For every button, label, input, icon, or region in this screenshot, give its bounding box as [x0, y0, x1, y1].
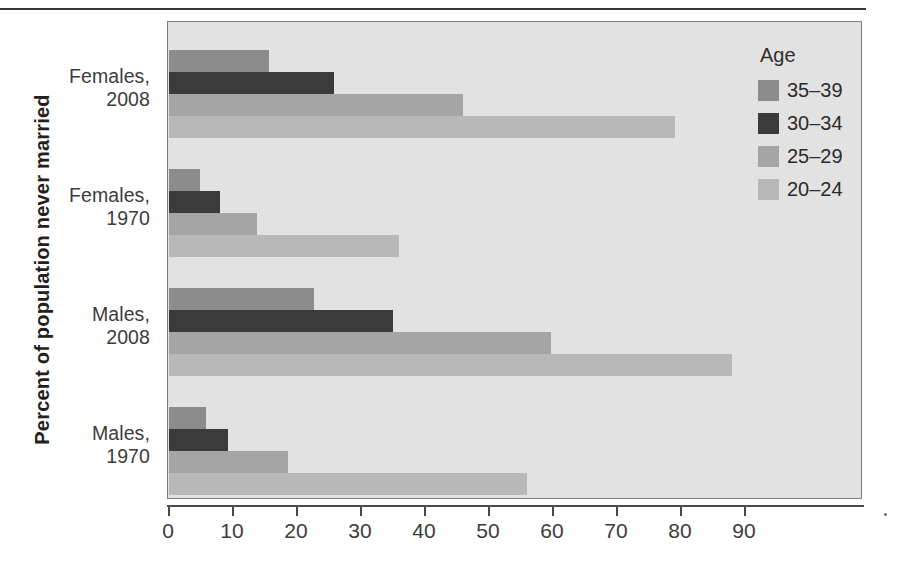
- bar: [169, 310, 393, 332]
- legend-swatch-icon: [758, 113, 779, 134]
- x-axis-tick-label: 70: [591, 519, 641, 543]
- legend-swatch-icon: [758, 179, 779, 200]
- legend-label: 25–29: [787, 145, 843, 168]
- y-axis-title: Percent of population never married: [31, 60, 54, 480]
- legend-swatch-icon: [758, 146, 779, 167]
- x-axis-tick: [744, 505, 746, 516]
- bar: [169, 94, 463, 116]
- legend-item-30-34: 30–34: [758, 107, 858, 140]
- x-axis-tick-label: 30: [335, 519, 385, 543]
- x-axis-tick: [168, 505, 170, 516]
- bar: [169, 50, 269, 72]
- x-axis-tick: [616, 505, 618, 516]
- bar: [169, 191, 220, 213]
- group-label-line1: Males,: [92, 422, 150, 444]
- x-axis-tick-label: 60: [527, 519, 577, 543]
- legend-item-35-39: 35–39: [758, 74, 858, 107]
- bar: [169, 332, 551, 354]
- bar: [169, 354, 732, 376]
- group-label-males-2008: Males, 2008: [40, 303, 150, 349]
- group-label-males-1970: Males, 1970: [40, 422, 150, 468]
- axis-end-dot: [884, 513, 887, 516]
- legend-label: 30–34: [787, 112, 843, 135]
- bar: [169, 407, 206, 429]
- group-label-line2: 2008: [40, 88, 150, 111]
- legend: Age 35–39 30–34 25–29 20–24: [758, 44, 858, 206]
- bar: [169, 169, 200, 191]
- bar: [169, 213, 257, 235]
- x-axis-tick: [360, 505, 362, 516]
- figure-root: Percent of population never married Fema…: [0, 0, 904, 567]
- x-axis-tick-label: 90: [719, 519, 769, 543]
- bar: [169, 288, 314, 310]
- x-axis-tick: [680, 505, 682, 516]
- group-label-line2: 1970: [40, 207, 150, 230]
- group-label-line1: Females,: [69, 65, 150, 87]
- group-label-females-2008: Females, 2008: [40, 65, 150, 111]
- legend-label: 20–24: [787, 178, 843, 201]
- x-axis-tick: [488, 505, 490, 516]
- bar: [169, 451, 288, 473]
- bar: [169, 429, 228, 451]
- x-axis-tick: [232, 505, 234, 516]
- bar: [169, 473, 527, 495]
- group-label-line2: 1970: [40, 445, 150, 468]
- legend-swatch-icon: [758, 80, 779, 101]
- bar: [169, 116, 675, 138]
- x-axis-tick-label: 40: [399, 519, 449, 543]
- legend-title: Age: [760, 44, 858, 67]
- bar: [169, 235, 399, 257]
- x-axis-tick: [296, 505, 298, 516]
- group-label-line1: Females,: [69, 184, 150, 206]
- x-axis-tick: [552, 505, 554, 516]
- top-rule: [0, 8, 866, 10]
- group-label-females-1970: Females, 1970: [40, 184, 150, 230]
- legend-item-20-24: 20–24: [758, 173, 858, 206]
- x-axis-tick-label: 20: [271, 519, 321, 543]
- plot-area: Age 35–39 30–34 25–29 20–24: [167, 21, 862, 499]
- x-axis-tick-label: 0: [143, 519, 193, 543]
- x-axis-tick-label: 80: [655, 519, 705, 543]
- legend-item-25-29: 25–29: [758, 140, 858, 173]
- x-axis-tick-label: 50: [463, 519, 513, 543]
- x-axis-tick: [424, 505, 426, 516]
- group-label-line2: 2008: [40, 326, 150, 349]
- x-axis-tick-label: 10: [207, 519, 257, 543]
- x-axis-line: [167, 505, 864, 507]
- bar: [169, 72, 334, 94]
- legend-label: 35–39: [787, 79, 843, 102]
- group-label-line1: Males,: [92, 303, 150, 325]
